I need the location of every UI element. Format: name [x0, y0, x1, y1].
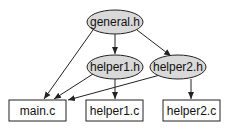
edge-general-to-helper2h [137, 30, 171, 56]
node-main-c[interactable]: main.c [9, 100, 66, 121]
node-helper2-c[interactable]: helper2.c [163, 100, 220, 121]
node-helper1-c[interactable]: helper1.c [86, 100, 143, 121]
node-helper1-h[interactable]: helper1.h [87, 55, 143, 79]
node-label: helper1.h [90, 60, 140, 74]
node-general-h[interactable]: general.h [87, 10, 143, 34]
node-helper2-h[interactable]: helper2.h [150, 55, 206, 79]
node-label: helper2.c [167, 104, 216, 118]
node-label: general.h [90, 15, 140, 29]
node-label: main.c [20, 104, 55, 118]
dependency-diagram: general.h helper1.h helper2.h main.c hel… [0, 0, 228, 135]
edge-general-to-main [44, 30, 93, 99]
node-label: helper1.c [90, 104, 139, 118]
node-label: helper2.h [153, 60, 203, 74]
